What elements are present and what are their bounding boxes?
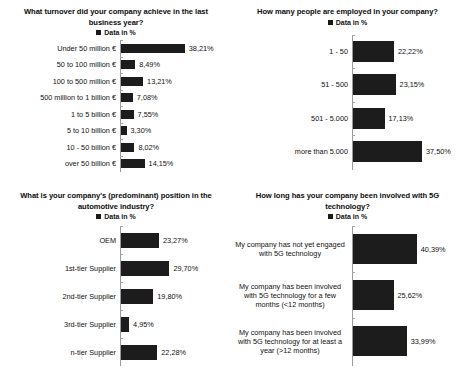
- bar-row: 1st-tier Supplier29,70%: [0, 254, 232, 282]
- bar-category-label: 3rd-tier Supplier: [0, 320, 120, 329]
- axis-tick: [120, 57, 123, 58]
- axis-tick: [120, 106, 123, 107]
- bar-value-label: 38,21%: [185, 44, 214, 53]
- survey-charts-sheet: What turnover did your company achieve i…: [0, 0, 463, 371]
- legend-swatch-icon: [96, 30, 101, 35]
- legend-label: Data in %: [104, 29, 136, 36]
- bar: [121, 44, 185, 53]
- bar-track: 23,27%: [120, 226, 232, 254]
- bar-row: My company has not yet engaged with 5G t…: [232, 226, 463, 272]
- chart-title-turnover: What turnover did your company achieve i…: [0, 0, 232, 28]
- bar-value-label: 13,21%: [143, 77, 172, 86]
- bar-track: 37,50%: [352, 135, 463, 169]
- bar-track: 22,22%: [352, 35, 463, 69]
- bar: [121, 93, 133, 102]
- bar-value-label: 25,62%: [394, 291, 423, 300]
- bar-row: 10 - 50 billion €8,02%: [0, 139, 232, 156]
- axis-tick: [352, 135, 355, 136]
- axis-tick: [120, 73, 123, 74]
- bar-category-label: 10 - 50 billion €: [0, 143, 120, 152]
- bar-row: OEM23,27%: [0, 226, 232, 254]
- bar: [353, 141, 422, 162]
- axis-tick: [120, 90, 123, 91]
- bar-row: 1 to 5 billion €7,55%: [0, 106, 232, 123]
- bar-value-label: 19,80%: [153, 292, 182, 301]
- bar-category-label: My company has not yet engaged with 5G t…: [232, 240, 352, 258]
- bar-value-label: 23,27%: [159, 236, 188, 245]
- bar-track: 40,39%: [352, 226, 463, 272]
- bar-value-label: 33,99%: [407, 337, 436, 346]
- chart-legend-5g-involvement: Data in %: [232, 213, 463, 220]
- plot-area-5g-involvement: My company has not yet engaged with 5G t…: [232, 226, 463, 366]
- axis-tick: [352, 68, 355, 69]
- bar-category-label: n-tier Supplier: [0, 348, 120, 357]
- bar-track: 33,99%: [352, 318, 463, 364]
- axis-tick: [120, 226, 123, 227]
- bar: [353, 280, 394, 310]
- bar-category-label: OEM: [0, 236, 120, 245]
- axis-tick: [352, 318, 355, 319]
- chart-panel-employees: How many people are employed in your com…: [232, 0, 463, 186]
- bar-track: 25,62%: [352, 272, 463, 318]
- bar-category-label: over 50 billion €: [0, 159, 120, 168]
- bar-row: 501 - 5.00017,13%: [232, 102, 463, 136]
- bar-track: 13,21%: [120, 73, 232, 90]
- axis-tick: [352, 102, 355, 103]
- bar-track: 8,02%: [120, 139, 232, 156]
- bar-category-label: 1st-tier Supplier: [0, 264, 120, 273]
- plot-area-position: OEM23,27%1st-tier Supplier29,70%2nd-tier…: [0, 226, 232, 366]
- bar-rows-turnover: Under 50 million €38,21%50 to 100 millio…: [0, 40, 232, 172]
- bar: [353, 74, 396, 95]
- axis-tick: [352, 226, 355, 227]
- bar-category-label: 501 - 5.000: [232, 114, 352, 123]
- chart-title-5g-involvement: How long has your company been involved …: [232, 186, 463, 212]
- bar-track: 7,08%: [120, 90, 232, 107]
- bar-category-label: more than 5.000: [232, 147, 352, 156]
- bar: [121, 60, 135, 69]
- bar-track: 19,80%: [120, 282, 232, 310]
- chart-legend-position: Data in %: [0, 213, 232, 220]
- legend-swatch-icon: [328, 214, 333, 219]
- bar-track: 8,49%: [120, 57, 232, 74]
- axis-tick: [120, 254, 123, 255]
- bar-row: 1 - 5022,22%: [232, 35, 463, 69]
- bar-row: 2nd-tier Supplier19,80%: [0, 282, 232, 310]
- bar-value-label: 7,08%: [133, 93, 158, 102]
- axis-tick: [120, 156, 123, 157]
- bar-category-label: 100 to 500 million €: [0, 77, 120, 86]
- bar-value-label: 3,30%: [127, 126, 152, 135]
- bar-track: 22,28%: [120, 338, 232, 366]
- plot-area-turnover: Under 50 million €38,21%50 to 100 millio…: [0, 40, 232, 172]
- chart-legend-turnover: Data in %: [0, 29, 232, 36]
- axis-tick: [120, 282, 123, 283]
- bar-value-label: 29,70%: [169, 264, 198, 273]
- bar-value-label: 4,95%: [129, 320, 154, 329]
- bar-value-label: 14,15%: [145, 159, 174, 168]
- axis-tick: [120, 139, 123, 140]
- legend-label: Data in %: [336, 213, 368, 220]
- axis-tick: [120, 338, 123, 339]
- bar: [353, 326, 407, 356]
- bar-row: My company has been involved with 5G tec…: [232, 272, 463, 318]
- bar: [353, 108, 385, 129]
- chart-title-employees: How many people are employed in your com…: [232, 0, 463, 18]
- bar-value-label: 22,22%: [394, 47, 423, 56]
- bar-category-label: 1 to 5 billion €: [0, 110, 120, 119]
- bar-value-label: 17,13%: [385, 114, 414, 123]
- bar: [121, 345, 157, 360]
- bar-value-label: 40,39%: [417, 245, 446, 254]
- bar-category-label: Under 50 million €: [0, 44, 120, 53]
- bar-row: 100 to 500 million €13,21%: [0, 73, 232, 90]
- chart-panel-position: What is your company's (predominant) pos…: [0, 186, 232, 371]
- bar-rows-5g-involvement: My company has not yet engaged with 5G t…: [232, 226, 463, 364]
- bar-value-label: 22,28%: [157, 348, 186, 357]
- bar-track: 14,15%: [120, 156, 232, 173]
- axis-tick: [120, 123, 123, 124]
- bar: [121, 261, 169, 276]
- bar-track: 38,21%: [120, 40, 232, 57]
- bar-row: n-tier Supplier22,28%: [0, 338, 232, 366]
- bar-row: Under 50 million €38,21%: [0, 40, 232, 57]
- bar: [121, 143, 134, 152]
- bar-row: more than 5.00037,50%: [232, 135, 463, 169]
- axis-tick: [120, 40, 123, 41]
